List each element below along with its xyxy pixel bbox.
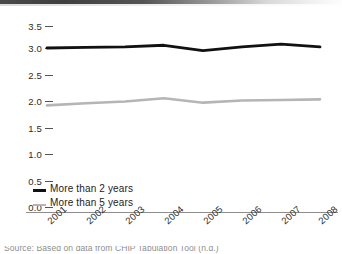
- series-line-more-than-5-years: [47, 98, 320, 105]
- series-line-more-than-2-years: [47, 44, 320, 51]
- legend-swatch-black: [33, 189, 46, 192]
- legend-label: More than 2 years: [50, 183, 133, 194]
- legend-swatch-gray: [33, 204, 46, 206]
- legend-label: More than 5 years: [50, 197, 133, 208]
- source-footnote-text: Source: Based on data from CHIP Tabulati…: [4, 246, 219, 253]
- source-footnote: Source: Based on data from CHIP Tabulati…: [4, 246, 342, 254]
- line-chart: 3.5 3.0 2.5 2.0 1.5 1.0 0.5 0.0 2001 200…: [0, 0, 342, 254]
